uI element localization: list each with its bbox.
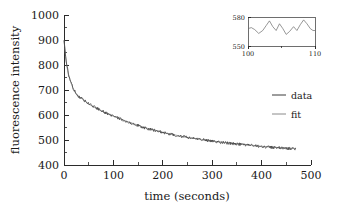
x-tick-label-0: 0 <box>61 169 68 182</box>
figure-container: 4005006007008009001000 0100200300400500 … <box>0 0 342 212</box>
legend-label-data: data <box>291 90 313 101</box>
y-tick-label-500: 500 <box>38 134 59 147</box>
y-tick-label-900: 900 <box>38 34 59 47</box>
x-tick-label-300: 300 <box>202 169 223 182</box>
y-tick-label-600: 600 <box>38 109 59 122</box>
legend-label-fit: fit <box>291 109 301 120</box>
y-tick-label-1000: 1000 <box>31 9 59 22</box>
x-tick-label-100: 100 <box>103 169 124 182</box>
inset-xtick-label-max: 110 <box>309 50 321 58</box>
y-tick-label-400: 400 <box>38 159 59 172</box>
x-tick-label-200: 200 <box>152 169 173 182</box>
inset-ytick-label-max: 580 <box>233 14 245 22</box>
fluorescence-decay-chart: 4005006007008009001000 0100200300400500 … <box>0 0 342 212</box>
y-axis-title: fluorescence intensity <box>8 25 22 154</box>
y-tick-label-700: 700 <box>38 84 59 97</box>
y-tick-label-800: 800 <box>38 59 59 72</box>
x-axis-title: time (seconds) <box>144 189 229 203</box>
x-tick-label-500: 500 <box>301 169 322 182</box>
x-tick-label-400: 400 <box>251 169 272 182</box>
inset-xtick-label-min: 100 <box>242 50 254 58</box>
